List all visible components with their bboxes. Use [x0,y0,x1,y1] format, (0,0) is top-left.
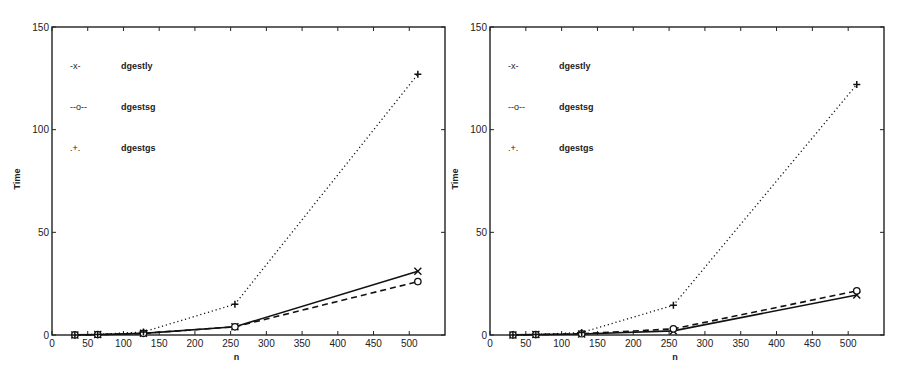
x-tick-label: 50 [82,338,94,349]
x-tick-label: 200 [625,338,642,349]
x-tick-label: 250 [661,338,678,349]
x-tick-label: 150 [151,338,168,349]
x-tick-label: 150 [589,338,606,349]
x-tick-label: 350 [732,338,749,349]
legend-symbol: -x- [70,61,81,71]
legend-label: dgestly [559,61,591,71]
y-tick-label: 50 [38,227,50,238]
x-tick-label: 350 [294,338,311,349]
data-point-plus-marker [670,302,677,309]
legend-label: dgestgs [559,143,594,153]
data-point-o-marker [232,324,238,330]
legend-symbol: --o-- [508,102,525,112]
legend-label: dgestsg [121,102,156,112]
x-tick-label: 450 [804,338,821,349]
legend-symbol: -x- [508,61,519,71]
y-tick-label: 150 [32,22,49,33]
y-tick-label: 150 [470,22,487,33]
x-tick-label: 500 [840,338,857,349]
x-tick-label: 400 [329,338,346,349]
x-tick-label: 500 [401,338,418,349]
x-axis-label: n [234,352,240,362]
legend-symbol: .+. [70,143,80,153]
y-tick-label: 0 [43,330,49,341]
data-point-o-marker [670,326,676,332]
chart-panel-1: 050100150200250300350400450500050100150n… [12,22,445,363]
legend-label: dgestsg [559,102,594,112]
series-line-dgestgs [513,84,857,334]
x-tick-label: 200 [187,338,204,349]
legend-label: dgestgs [121,143,156,153]
x-tick-label: 100 [115,338,132,349]
x-tick-label: 250 [222,338,239,349]
y-tick-label: 100 [470,124,487,135]
x-tick-label: 400 [768,338,785,349]
x-axis-label: n [672,352,678,362]
x-tick-label: 0 [49,338,55,349]
x-tick-label: 300 [258,338,275,349]
data-point-o-marker [415,278,421,284]
x-tick-label: 100 [553,338,570,349]
series-line-dgestsg [75,282,418,335]
x-tick-label: 450 [365,338,382,349]
x-tick-label: 0 [487,338,493,349]
y-tick-label: 0 [481,330,487,341]
y-axis-label: Time [12,169,22,190]
series-line-dgestgs [75,74,418,335]
plot-frame [52,27,445,335]
y-tick-label: 50 [476,227,488,238]
legend-label: dgestly [121,61,153,71]
chart-panel-2: 050100150200250300350400450500050100150n… [450,22,884,363]
x-tick-label: 300 [697,338,714,349]
data-point-o-marker [854,288,860,294]
data-point-plus-marker [231,301,238,308]
series-line-dgestly [75,271,418,335]
y-axis-label: Time [450,169,460,190]
legend-symbol: .+. [508,143,518,153]
plot-frame [490,27,884,335]
legend-symbol: --o-- [70,102,87,112]
y-tick-label: 100 [32,124,49,135]
x-tick-label: 50 [520,338,532,349]
chart-figure: 050100150200250300350400450500050100150n… [0,0,902,367]
data-point-plus-marker [414,71,421,78]
